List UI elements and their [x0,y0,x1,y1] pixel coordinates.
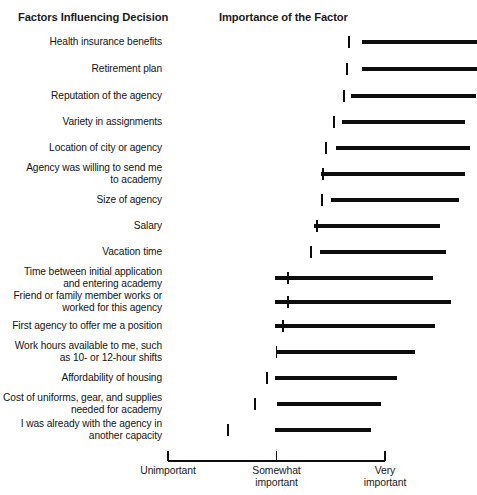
chart-row: Cost of uniforms, gear, and suppliesneed… [0,391,421,417]
mean-marker-tick [325,142,327,154]
chart-row: Time between initial applicationand ente… [0,265,421,291]
range-bar [336,146,469,149]
axis-label-line-2: important [330,477,440,489]
chart-row: Affordability of housing [0,365,421,391]
mean-marker-tick [348,36,350,48]
range-bar [314,224,440,227]
axis-label-2: Somewhatimportant [222,465,332,489]
range-bar [275,300,451,303]
range-bar [362,40,477,43]
mean-marker-tick [282,320,284,332]
range-bar [275,276,432,279]
row-plot [0,83,421,109]
axis-tick-3 [384,451,386,461]
mean-marker-tick [287,272,289,284]
range-bar [277,402,381,405]
row-plot [0,417,421,443]
axis-label-line-1: Somewhat [252,465,300,476]
axis-tick-1 [167,451,169,461]
chart-row: Location of city or agency [0,135,421,161]
axis-label-1: Unimportant [113,465,223,477]
chart-row: Agency was willing to send meto academy [0,161,421,187]
chart-row: Variety in assignments [0,109,421,135]
chart-row: Retirement plan [0,56,421,82]
chart-row: Size of agency [0,187,421,213]
chart-row: Vacation time [0,239,421,265]
chart-row: I was already with the agency inanother … [0,417,421,443]
row-plot [0,109,421,135]
range-bar [320,250,446,253]
chart-row: Salary [0,213,421,239]
axis: UnimportantSomewhatimportantVeryimportan… [0,451,421,495]
row-plot [0,339,421,365]
chart-row: First agency to offer me a position [0,313,421,339]
mean-marker-tick [276,346,278,358]
range-bar [351,94,476,97]
column-header-factors: Factors Influencing Decision [18,11,168,23]
range-bar [275,428,370,431]
range-bar [342,120,466,123]
mean-marker-tick [322,168,324,180]
mean-marker-tick [227,424,229,436]
mean-marker-tick [316,220,318,232]
row-plot [0,187,421,213]
row-plot [0,289,421,315]
range-bar [275,376,397,379]
axis-label-3: Veryimportant [330,465,440,489]
row-plot [0,135,421,161]
range-bar [277,350,416,353]
mean-marker-tick [333,116,335,128]
column-header-importance: Importance of the Factor [219,11,348,23]
row-plot [0,29,421,55]
mean-marker-tick [321,194,323,206]
row-plot [0,239,421,265]
chart-row: Friend or family member works orworked f… [0,289,421,315]
mean-marker-tick [266,372,268,384]
row-plot [0,265,421,291]
mean-marker-tick [287,296,289,308]
mean-marker-tick [346,63,348,75]
range-bar [362,67,477,70]
row-plot [0,161,421,187]
mean-marker-tick [254,398,256,410]
row-plot [0,365,421,391]
axis-label-line-1: Very [375,465,395,476]
chart-row: Work hours available to me, suchas 10- o… [0,339,421,365]
range-bar [331,198,459,201]
axis-label-line-2: important [222,477,332,489]
row-plot [0,213,421,239]
row-plot [0,313,421,339]
axis-label-line-1: Unimportant [140,465,196,476]
row-plot [0,56,421,82]
range-bar [321,172,465,175]
mean-marker-tick [310,246,312,258]
row-plot [0,391,421,417]
axis-tick-2 [276,451,278,461]
chart-row: Health insurance benefits [0,29,421,55]
chart-row: Reputation of the agency [0,83,421,109]
mean-marker-tick [343,90,345,102]
range-bar [275,324,434,327]
